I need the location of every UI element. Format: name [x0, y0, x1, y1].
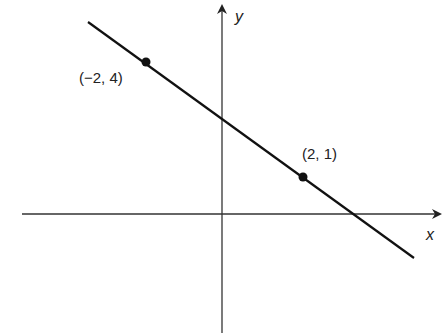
point2-label: (2, 1) [302, 145, 337, 162]
point-neg2-4 [142, 58, 151, 67]
coordinate-plane: (−2, 4) (2, 1) y x [0, 0, 447, 333]
y-axis-label: y [234, 8, 244, 25]
graph-line [88, 22, 414, 258]
point-2-1 [299, 173, 308, 182]
point1-label: (−2, 4) [79, 69, 123, 86]
x-axis-label: x [425, 226, 435, 243]
